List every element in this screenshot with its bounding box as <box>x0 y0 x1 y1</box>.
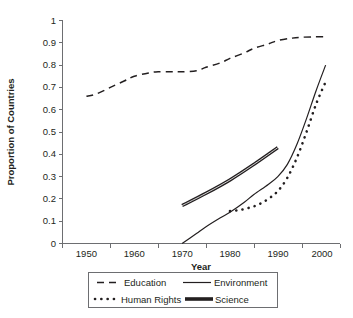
y-axis <box>59 20 63 244</box>
series-line-science <box>182 148 278 206</box>
series-line-environment <box>182 65 326 243</box>
y-tick-label: 0.9 <box>43 37 56 48</box>
line-chart: Proportion of Countries 1 0.9 0.8 0.7 0.… <box>0 0 353 318</box>
y-tick-label: 0.8 <box>43 59 56 70</box>
x-axis-tick-labels: 1950 1960 1970 1980 1990 2000 <box>76 248 333 259</box>
x-axis <box>63 244 341 249</box>
chart-container: Proportion of Countries 1 0.9 0.8 0.7 0.… <box>0 0 353 318</box>
y-axis-tick-labels: 1 0.9 0.8 0.7 0.6 0.5 0.4 0.3 0.2 0.1 0 <box>43 15 56 249</box>
chart-legend: Education Environment Human Rights Scien… <box>89 273 278 308</box>
y-axis-title-text: Proportion of Countries <box>5 78 16 185</box>
y-tick-label: 0.1 <box>43 215 56 226</box>
series-line-education <box>86 37 325 97</box>
x-tick-label: 1990 <box>267 248 288 259</box>
y-tick-label: 0.3 <box>43 171 56 182</box>
legend-label-science: Science <box>215 294 249 305</box>
y-tick-label: 0.7 <box>43 81 56 92</box>
y-tick-label: 0.6 <box>43 104 56 115</box>
y-tick-label: 0.4 <box>43 148 56 159</box>
y-tick-label: 0 <box>51 238 56 249</box>
x-tick-label: 1970 <box>172 248 193 259</box>
x-tick-label: 2000 <box>311 248 332 259</box>
y-tick-label: 0.2 <box>43 193 56 204</box>
y-tick-label: 0.5 <box>43 126 56 137</box>
x-tick-label: 1980 <box>220 248 241 259</box>
x-tick-label: 1960 <box>124 248 145 259</box>
legend-label-human-rights: Human Rights <box>121 294 181 305</box>
series-group <box>86 37 325 244</box>
y-axis-title: Proportion of Countries <box>5 78 16 185</box>
x-tick-label: 1950 <box>76 248 97 259</box>
legend-label-education: Education <box>124 277 166 288</box>
x-axis-title-text: Year <box>191 261 211 272</box>
legend-label-environment: Environment <box>214 277 268 288</box>
series-line-human-rights <box>230 82 326 211</box>
y-tick-label: 1 <box>51 15 56 26</box>
